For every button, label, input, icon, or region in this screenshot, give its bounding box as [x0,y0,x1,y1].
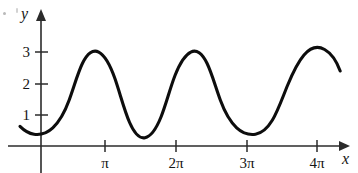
x-tick-label-4pi: 4π [309,156,324,171]
x-tick-label-3pi: 3π [239,156,254,171]
y-tick-label-2: 2 [12,77,30,92]
figure-container: y x 3 2 1 π 2π 3π 4π [0,0,358,173]
x-tick-label-2pi: 2π [168,156,183,171]
x-tick-label-pi: π [101,156,109,171]
y-tick-label-3: 3 [12,45,30,60]
function-curve [20,47,340,137]
y-tick-label-1: 1 [12,108,30,123]
y-axis-arrowhead [36,9,46,21]
x-axis-label: x [342,151,349,167]
plot-canvas [0,0,358,173]
y-axis-label: y [21,6,28,22]
